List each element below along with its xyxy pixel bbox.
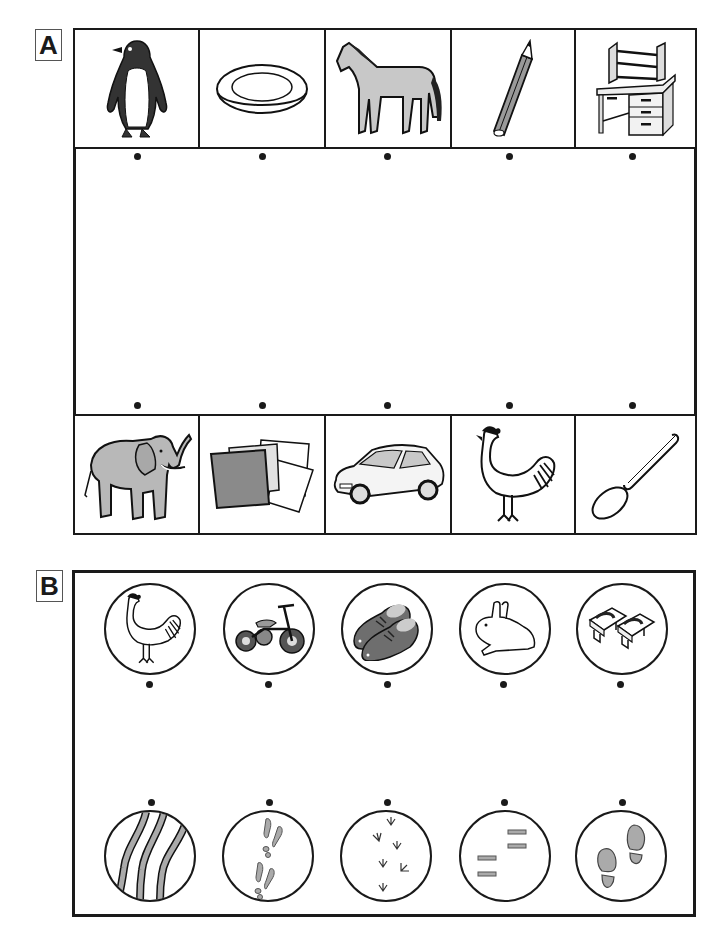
section-b-bottom-circle-shoe-prints: shoe prints <box>575 810 667 902</box>
car-icon <box>330 442 446 508</box>
section-a-bottom-dot-2[interactable] <box>259 402 266 409</box>
elephant-icon <box>81 425 193 525</box>
section-b-bottom-dot-1[interactable] <box>148 799 155 806</box>
geta-icon <box>586 602 658 656</box>
horse-icon <box>329 37 447 141</box>
tricycle-icon <box>232 601 306 657</box>
shoes-icon <box>350 597 424 661</box>
section-a-bottom-dot-4[interactable] <box>506 402 513 409</box>
section-b-label: B <box>36 570 63 602</box>
tire-tracks-icon <box>106 812 194 900</box>
pencil-icon <box>488 39 538 139</box>
section-b-bottom-dot-4[interactable] <box>501 799 508 806</box>
section-a-top-cell-horse: horse <box>324 28 452 149</box>
section-a-top-cell-penguin: penguin <box>73 28 200 149</box>
section-a-top-cell-pencil: pencil <box>450 28 576 149</box>
section-a-bottom-cell-elephant: elephant <box>73 414 200 535</box>
section-a-bottom-cell-spoon: spoon <box>574 414 697 535</box>
section-a-top-dot-3[interactable] <box>384 153 391 160</box>
section-a-top-cell-plate: plate <box>198 28 326 149</box>
section-b-top-circle-shoes: shoes <box>341 583 433 675</box>
desk-icon <box>593 37 679 141</box>
section-b-top-circle-rooster: rooster <box>104 583 196 675</box>
section-b-top-circle-rabbit: rabbit <box>459 583 551 675</box>
plate-icon <box>214 61 310 117</box>
spoon-icon <box>588 429 684 521</box>
section-b-bottom-circle-tire-tracks: tire tracks <box>104 810 196 902</box>
section-a-bottom-cell-rooster: rooster <box>450 414 576 535</box>
section-b-top-dot-3[interactable] <box>384 681 391 688</box>
section-a-bottom-dot-1[interactable] <box>134 402 141 409</box>
section-a-bottom-dot-3[interactable] <box>384 402 391 409</box>
rooster-icon <box>468 423 558 527</box>
section-b-top-circle-geta: geta sandals <box>576 583 668 675</box>
section-b-top-dot-5[interactable] <box>617 681 624 688</box>
shoe-prints-icon <box>588 821 654 891</box>
section-a-label: A <box>35 29 62 61</box>
bird-tracks-icon <box>351 813 421 899</box>
section-a-top-dot-5[interactable] <box>629 153 636 160</box>
penguin-icon <box>102 37 172 141</box>
section-b-top-circle-tricycle: tricycle <box>223 583 315 675</box>
section-b-bottom-circle-geta-prints: geta prints <box>459 810 551 902</box>
section-a-bottom-cell-paper-sheets: paper sheets <box>198 414 326 535</box>
section-b-top-dot-4[interactable] <box>500 681 507 688</box>
section-b-bottom-dot-5[interactable] <box>619 799 626 806</box>
section-b-bottom-dot-2[interactable] <box>266 799 273 806</box>
section-b-bottom-circle-bird-tracks: bird tracks <box>340 810 432 902</box>
rabbit-icon <box>470 599 540 659</box>
section-a-top-dot-4[interactable] <box>506 153 513 160</box>
paper-sheets-icon <box>207 432 317 518</box>
rabbit-tracks-icon <box>238 813 298 899</box>
section-a-bottom-cell-car: car <box>324 414 452 535</box>
section-a-bottom-dot-5[interactable] <box>629 402 636 409</box>
section-b-bottom-dot-3[interactable] <box>384 799 391 806</box>
section-b-bottom-circle-rabbit-tracks: rabbit tracks <box>222 810 314 902</box>
section-b-top-dot-2[interactable] <box>265 681 272 688</box>
section-a-top-dot-2[interactable] <box>259 153 266 160</box>
section-a-top-dot-1[interactable] <box>134 153 141 160</box>
section-b-top-dot-1[interactable] <box>146 681 153 688</box>
section-a-top-cell-desk: desk <box>574 28 697 149</box>
geta-prints-icon <box>470 824 540 888</box>
rooster-icon <box>117 590 183 668</box>
